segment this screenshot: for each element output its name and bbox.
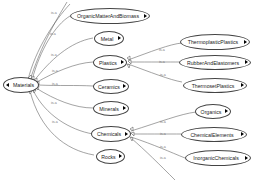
node-label: Chemicals <box>97 131 121 137</box>
edge-label: is-a <box>50 32 56 36</box>
node-inorganicchemicals[interactable]: InorganicChemicals <box>185 150 251 166</box>
edge-label: is-a <box>159 48 165 52</box>
node-organicmatterandbiomass[interactable]: OrganicMatterAndBiomass <box>70 8 150 24</box>
edge-label: is-a <box>160 120 166 124</box>
node-label: Metal <box>101 36 114 42</box>
node-label: RubberAndElastomers <box>187 60 239 66</box>
edge-label: is-a <box>52 82 58 86</box>
node-label: Materials <box>13 82 34 88</box>
expand-triangle-icon[interactable] <box>241 83 244 87</box>
edge-plastics-thermoplastic <box>128 43 182 60</box>
node-label: OrganicMatterAndBiomass <box>77 13 139 19</box>
edge-label: is-a <box>51 101 57 105</box>
expand-triangle-icon[interactable] <box>245 60 248 64</box>
expand-triangle-icon[interactable] <box>241 132 244 136</box>
edge-label: is-a <box>160 145 166 149</box>
expand-triangle-icon[interactable] <box>144 14 147 18</box>
node-ceramics[interactable]: Ceramics <box>93 79 129 94</box>
edge-chemicals-inorganic <box>131 137 185 158</box>
edge-label: is-a <box>159 60 165 64</box>
edge-label: is-a <box>51 11 57 15</box>
expand-triangle-icon[interactable] <box>119 154 122 158</box>
node-chemicals[interactable]: Chemicals <box>91 126 131 142</box>
node-plastics[interactable]: Plastics <box>93 55 127 70</box>
node-chemicalelements[interactable]: ChemicalElements <box>181 127 247 142</box>
node-thermoplasticplastics[interactable]: ThermoplasticPlastics <box>180 34 250 50</box>
expand-triangle-icon[interactable] <box>123 84 126 88</box>
edge-label: is-a <box>52 69 58 73</box>
node-label: ThermosetPlastics <box>192 83 235 89</box>
node-rocks[interactable]: Rocks <box>96 149 125 164</box>
node-organics[interactable]: Organics <box>195 104 231 119</box>
edge-chemicals-offscreen <box>131 138 175 180</box>
expand-triangle-icon[interactable] <box>225 109 228 113</box>
expand-triangle-icon[interactable] <box>125 132 128 136</box>
node-label: Rocks <box>101 154 115 160</box>
edge-plastics-thermoset <box>128 64 182 82</box>
expand-triangle-icon[interactable] <box>118 36 121 40</box>
node-label: Minerals <box>99 106 119 112</box>
edge-label: is-a <box>160 132 166 136</box>
node-label: Plastics <box>99 60 117 66</box>
node-label: InorganicChemicals <box>193 155 239 161</box>
expand-triangle-icon[interactable] <box>245 156 248 160</box>
node-label: ThermoplasticPlastics <box>188 39 238 45</box>
edge-materials-plastics <box>37 62 93 82</box>
collapse-triangle-icon[interactable] <box>6 83 9 87</box>
edge-label: is-a <box>52 120 58 124</box>
node-minerals[interactable]: Minerals <box>93 101 129 116</box>
edge-label: is-a <box>160 156 166 160</box>
expand-triangle-icon[interactable] <box>244 40 247 44</box>
node-metal[interactable]: Metal <box>94 31 124 46</box>
node-label: ChemicalElements <box>190 132 233 138</box>
node-materials[interactable]: Materials <box>3 77 39 93</box>
expand-triangle-icon[interactable] <box>121 60 124 64</box>
edge-label: is-a <box>51 53 57 57</box>
edge-materials-rocks <box>30 91 94 155</box>
edge-materials-organicmatter <box>32 16 70 80</box>
expand-triangle-icon[interactable] <box>123 106 126 110</box>
node-label: Ceramics <box>98 84 120 90</box>
edge-materials-metal <box>34 38 93 81</box>
edge-materials-minerals <box>36 88 93 108</box>
node-rubberandelastomers[interactable]: RubberAndElastomers <box>179 55 251 70</box>
edge-materials-ceramics <box>38 85 93 86</box>
edge-label: is-a <box>160 73 166 77</box>
edge-materials-chemicals <box>33 90 93 134</box>
node-label: Organics <box>201 109 222 115</box>
node-thermosetplastics[interactable]: ThermosetPlastics <box>183 78 247 93</box>
